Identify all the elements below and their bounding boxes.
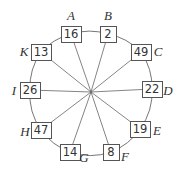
node-B-label: B xyxy=(104,8,112,24)
diagram: 16A2B49C22D19E8F14G47H26I13K xyxy=(0,0,182,178)
node-A-label: A xyxy=(67,8,75,24)
node-I-label: I xyxy=(12,83,16,99)
node-G-label: G xyxy=(79,150,88,166)
node-G-value-box: 14 xyxy=(60,144,81,161)
node-K-label: K xyxy=(20,44,29,60)
spoke-edge-B xyxy=(91,34,108,92)
node-F-label: F xyxy=(121,149,129,165)
spoke-edge-A xyxy=(71,34,91,92)
node-I-value-box: 26 xyxy=(20,82,41,99)
node-D-value-box: 22 xyxy=(142,81,163,98)
node-B-value-box: 2 xyxy=(100,26,117,43)
node-E-label: E xyxy=(153,123,161,139)
node-F-value-box: 8 xyxy=(103,144,120,161)
node-A-value-box: 16 xyxy=(61,26,82,43)
node-C-value-box: 49 xyxy=(131,44,152,61)
node-H-value-box: 47 xyxy=(31,122,52,139)
node-C-label: C xyxy=(154,44,163,60)
node-K-value-box: 13 xyxy=(31,44,52,61)
node-E-value-box: 19 xyxy=(130,121,151,138)
node-H-label: H xyxy=(20,124,29,140)
node-D-label: D xyxy=(163,83,172,99)
